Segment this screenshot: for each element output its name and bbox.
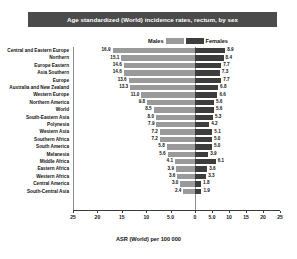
bar-row: 9.85.6: [73, 99, 280, 106]
legend-swatch-females: [186, 38, 204, 44]
bar-female: [195, 55, 224, 60]
tick-mark: [229, 211, 230, 213]
category-label: Australia and New Zealand: [0, 84, 69, 91]
chart-legend: Males Females: [148, 36, 228, 45]
category-label: South-Eastern Asia: [0, 114, 69, 121]
tick-label: 0: [194, 214, 197, 220]
bar-male: [160, 137, 195, 142]
bar-row: 3.01.8: [73, 180, 280, 187]
bar-male: [180, 181, 195, 186]
bar-female: [195, 174, 206, 179]
bar-male: [124, 70, 195, 75]
tick-label: 20: [260, 214, 266, 220]
category-label: Western Africa: [0, 173, 69, 180]
bar-female: [195, 152, 208, 157]
bar-female: [195, 137, 212, 142]
bar-female: [195, 78, 221, 83]
tick-label: 25: [70, 214, 76, 220]
tick-mark: [280, 211, 281, 213]
bar-male: [129, 78, 195, 83]
bar-male: [167, 144, 195, 149]
bar-row: 8.55.6: [73, 106, 280, 113]
tick-mark: [122, 211, 123, 213]
bar-row: 16.98.9: [73, 47, 280, 54]
bar-value-female: 5.0: [214, 143, 220, 150]
bar-value-male: 3.0: [166, 180, 178, 187]
bar-value-male: 3.6: [163, 173, 175, 180]
bar-male: [121, 55, 195, 60]
tick-label: 5.0: [167, 214, 174, 220]
bar-female: [195, 181, 201, 186]
chart-title-banner: Age standardized (World) incidence rates…: [28, 12, 277, 27]
tick-label: 5.0: [209, 214, 216, 220]
bar-male: [156, 122, 195, 127]
bar-value-male: 5.8: [153, 143, 165, 150]
bar-value-male: 8.0: [142, 114, 154, 121]
category-label: Middle Africa: [0, 158, 69, 165]
bar-male: [113, 48, 195, 53]
category-axis-labels: Central and Eastern EuropeNorthernEurope…: [0, 47, 71, 210]
bar-value-female: 7.3: [222, 69, 228, 76]
tick-label: 20: [95, 214, 101, 220]
bar-value-female: 7.7: [223, 77, 229, 84]
bar-row: 15.18.4: [73, 54, 280, 61]
bar-value-male: 2.4: [169, 188, 181, 195]
bar-row: 14.67.3: [73, 69, 280, 76]
bar-female: [195, 85, 218, 90]
tick-mark: [263, 211, 264, 213]
bar-female: [195, 63, 221, 68]
bar-value-female: 3.3: [208, 173, 214, 180]
category-label: Eastern Africa: [0, 165, 69, 172]
bar-male: [160, 129, 195, 134]
category-label: South America: [0, 143, 69, 150]
chart-page: Age standardized (World) incidence rates…: [0, 0, 297, 259]
tick-mark: [212, 211, 213, 213]
tick-mark: [73, 211, 74, 213]
bar-value-male: 7.2: [146, 136, 158, 143]
bar-value-male: 7.2: [146, 129, 158, 136]
bar-male: [183, 189, 195, 194]
category-label: Northern: [0, 54, 69, 61]
category-label: Western Asia: [0, 128, 69, 135]
tick-label: 25: [277, 214, 283, 220]
bar-male: [168, 152, 195, 157]
bar-row: 7.94.2: [73, 121, 280, 128]
tick-label: 15: [243, 214, 249, 220]
bar-female: [195, 166, 207, 171]
bar-row: 11.06.6: [73, 91, 280, 98]
category-label: Central and Eastern Europe: [0, 47, 69, 54]
bar-value-female: 8.4: [226, 55, 232, 62]
bar-row: 7.25.0: [73, 136, 280, 143]
bar-female: [195, 115, 213, 120]
tick-mark: [246, 211, 247, 213]
bar-female: [195, 129, 212, 134]
bar-female: [195, 92, 217, 97]
legend-swatch-males: [166, 38, 184, 44]
bar-value-female: 5.1: [214, 129, 220, 136]
tick-mark: [146, 211, 147, 213]
bar-male: [176, 166, 195, 171]
bar-row: 5.63.9: [73, 151, 280, 158]
bar-value-female: 5.6: [216, 99, 222, 106]
bar-female: [195, 100, 214, 105]
bar-row: 4.16.1: [73, 158, 280, 165]
bar-value-female: 6.1: [218, 158, 224, 165]
bar-value-female: 1.8: [203, 180, 209, 187]
bar-row: 7.25.1: [73, 128, 280, 135]
bar-value-female: 5.3: [215, 114, 221, 121]
x-axis-title: ASR (World) per 100 000: [0, 236, 297, 242]
category-label: World: [0, 106, 69, 113]
bar-male: [177, 174, 195, 179]
bar-value-female: 3.6: [209, 166, 215, 173]
bar-female: [195, 144, 212, 149]
tick-label: 10: [143, 214, 149, 220]
tick-mark: [195, 211, 196, 213]
bar-female: [195, 122, 209, 127]
bar-value-male: 4.1: [161, 158, 173, 165]
bar-value-female: 1.9: [203, 188, 209, 195]
category-label: Polynesia: [0, 121, 69, 128]
bar-value-female: 8.9: [227, 47, 233, 54]
bar-value-female: 3.9: [210, 151, 216, 158]
bar-value-male: 13.6: [115, 77, 127, 84]
bar-value-male: 7.9: [142, 121, 154, 128]
